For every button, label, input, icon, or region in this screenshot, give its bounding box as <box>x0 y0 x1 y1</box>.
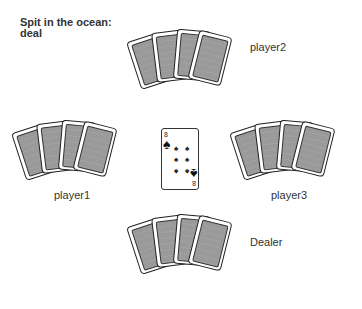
player3-label: player3 <box>271 189 307 201</box>
card-rank: 8 <box>192 180 196 187</box>
spade-icon: ♠ <box>174 156 178 164</box>
spade-icon: ♠ <box>174 145 178 153</box>
spade-icon: ♠ <box>185 156 189 164</box>
face-up-card-8-of-spades[interactable]: 8 ♠ ♠ ♠ ♠ ♠ ♠ ♠ ♠ 8 <box>161 128 199 190</box>
spade-icon: ♠ <box>185 145 189 153</box>
player2-hand <box>127 22 237 102</box>
game-title: Spit in the ocean: deal <box>20 17 112 39</box>
dealer-label: Dealer <box>250 236 282 248</box>
player1-label: player1 <box>54 189 90 201</box>
title-line-2: deal <box>20 28 112 39</box>
dealer-hand <box>127 207 237 287</box>
spade-icon: ♠ <box>174 167 178 175</box>
spade-icon: ♠ <box>185 167 189 175</box>
spade-icon: ♠ <box>190 167 197 181</box>
player1-hand <box>12 113 122 193</box>
player3-hand <box>230 113 340 193</box>
player2-label: player2 <box>250 41 286 53</box>
spade-icon: ♠ <box>163 137 170 151</box>
